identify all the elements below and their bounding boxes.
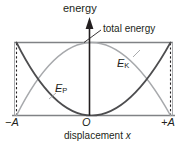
x-tick-label-origin: O [82, 117, 91, 128]
kinetic-energy-label-subscript: K [124, 61, 129, 70]
x-tick-label-minus-amplitude: −A [5, 117, 19, 128]
potential-energy-label: EP [55, 83, 67, 95]
energy-plot-canvas [0, 0, 187, 145]
y-axis-label: energy [63, 3, 97, 14]
y-axis-arrowhead-icon [86, 17, 94, 29]
x-axis-label-text: displacement [64, 130, 126, 141]
potential-energy-curve [17, 43, 171, 116]
kinetic-energy-label: EK [117, 58, 129, 70]
ek-leader-line [133, 50, 140, 57]
total-energy-leader-line [84, 30, 101, 43]
total-energy-annotation: total energy [103, 24, 155, 34]
x-axis-label: displacement x [64, 131, 131, 141]
x-tick-label-plus-amplitude: +A [161, 117, 175, 128]
potential-energy-label-subscript: P [62, 86, 67, 95]
x-axis-label-variable: x [126, 130, 131, 141]
shm-energy-diagram: energy total energy EK EP −A O +A displa… [0, 0, 187, 145]
